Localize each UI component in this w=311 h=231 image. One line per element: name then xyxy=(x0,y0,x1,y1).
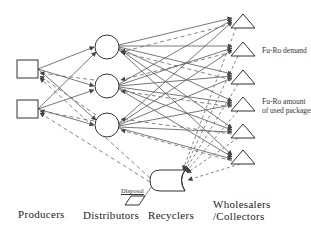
wholesaler-node-4 xyxy=(231,97,255,111)
supply-chain-diagram xyxy=(0,0,311,231)
reverse-flows-wholesaler-distributor xyxy=(121,24,232,161)
wholesaler-node-3 xyxy=(231,70,255,84)
recycler-node xyxy=(150,170,185,191)
stage-label-distributors: Distributors xyxy=(83,209,139,221)
stage-label-wholesalers-line1: Wholesalers xyxy=(213,198,271,210)
annotation-demand: Fu-Ro demand xyxy=(262,46,307,55)
disposal-node xyxy=(125,196,145,205)
distributor-node-2 xyxy=(95,74,119,98)
wholesaler-node-5 xyxy=(231,124,255,138)
annotation-used-packages-line2: of used packages xyxy=(262,106,311,115)
stage-label-recyclers: Recyclers xyxy=(148,209,194,221)
stage-label-wholesalers-line2: /Collectors xyxy=(213,210,265,222)
wholesaler-node-6 xyxy=(231,150,255,164)
forward-flows-producer-distributor xyxy=(38,47,96,125)
distributor-node-1 xyxy=(95,35,119,59)
reverse-flows-distributor-producer xyxy=(40,73,96,121)
flow-recycler-disposal xyxy=(145,186,152,196)
annotation-disposal: Disposal xyxy=(121,187,144,194)
stage-label-producers: Producers xyxy=(18,208,65,220)
producer-node-1 xyxy=(17,60,38,78)
producer-node-2 xyxy=(17,100,38,118)
wholesaler-node-2 xyxy=(231,42,255,56)
distributor-node-3 xyxy=(95,113,119,137)
annotation-used-packages-line1: Fu-Ro amount xyxy=(262,97,306,106)
wholesaler-node-1 xyxy=(231,14,255,28)
